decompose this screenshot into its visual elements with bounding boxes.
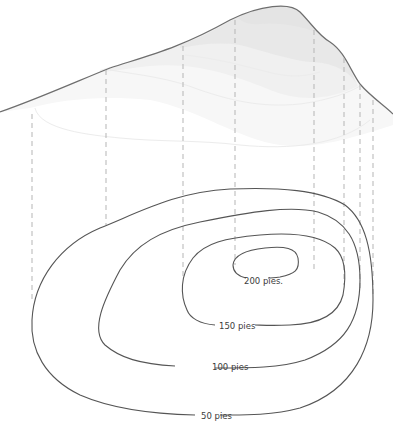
terrain-profile xyxy=(0,6,393,147)
contour-label-150: 150 pies xyxy=(219,321,256,331)
contour-label-200: 200 pies. xyxy=(244,276,283,286)
contour-label-50: 50 pies xyxy=(201,411,233,421)
contour-map xyxy=(32,188,373,415)
contour-label-100: 100 pies xyxy=(212,362,249,372)
contour-200 xyxy=(233,247,298,278)
contour-labels: 200 pies. 150 pies 100 pies 50 pies xyxy=(201,276,283,421)
contour-100 xyxy=(99,209,360,368)
topographic-diagram: 200 pies. 150 pies 100 pies 50 pies xyxy=(0,0,393,432)
contour-50 xyxy=(32,188,373,415)
